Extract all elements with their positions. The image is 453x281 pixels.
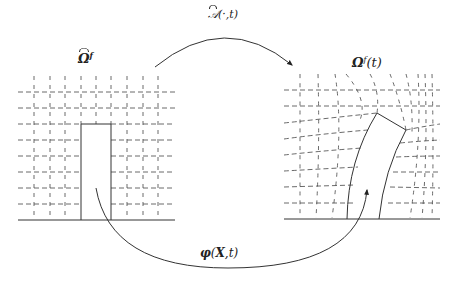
ale-arguments: (·,t) [218,8,238,21]
current-domain-label: Ωf(t) [352,55,382,70]
phi-bold-argument: X [216,246,225,260]
reference-domain [18,76,175,220]
phi-symbol: φ [200,246,211,260]
omega-ref-symbol: Ω [78,51,90,66]
reference-grid-horizontal [18,92,175,204]
omega-ref-superscript: f [90,50,93,60]
omega-cur-argument: (t) [367,55,382,70]
domain-mapping-diagram [0,0,453,281]
ale-map-arrow [155,38,292,67]
deformation-map-label: φ(X,t) [200,246,238,260]
phi-rest-arguments: ,t) [225,246,238,260]
reference-solid-structure [81,124,111,220]
reference-domain-label: Ωf [78,50,93,66]
reference-grid-vertical [34,76,158,218]
ale-map-label: 𝒜(·,t) [208,8,238,21]
ale-symbol: 𝒜 [208,8,218,21]
omega-cur-symbol: Ω [352,55,364,70]
current-domain [284,74,440,219]
